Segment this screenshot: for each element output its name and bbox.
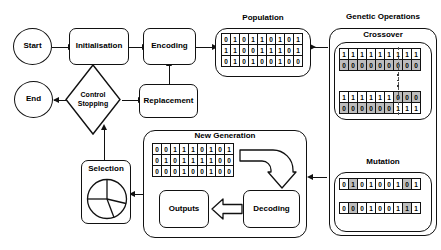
bit-cell: 0	[224, 165, 234, 177]
bit-row: 010100100	[221, 55, 302, 67]
node-start-label: Start	[23, 42, 41, 50]
roulette-wheel-icon	[85, 177, 129, 221]
new-generation-label: New Generation	[143, 131, 307, 140]
node-control-stopping-label: Control Stopping	[64, 63, 122, 136]
bit-cell: 1	[411, 178, 421, 190]
arrow-control-to-replacement	[122, 100, 139, 102]
node-outputs[interactable]: Outputs	[159, 190, 209, 228]
bit-row: 010100101	[339, 178, 420, 190]
node-encoding-label: Encoding	[151, 42, 187, 50]
node-decoding-label: Decoding	[253, 205, 289, 213]
bit-row: 000100100	[152, 165, 233, 177]
crossover-label: Crossover	[334, 30, 432, 39]
arrow-encoding-to-population	[196, 47, 213, 49]
node-initialisation-label: Initialisation	[76, 42, 123, 50]
bit-row: 000100111	[339, 202, 420, 214]
node-initialisation[interactable]: Initialisation	[69, 28, 129, 65]
node-selection-label: Selection	[82, 161, 130, 173]
bit-row: 000000111	[339, 102, 420, 114]
node-selection[interactable]: Selection	[81, 160, 131, 224]
population-label: Population	[215, 13, 311, 22]
genetic-operations-label: Genetic Operations	[329, 12, 437, 21]
mutation-matrix: 010100101000100111	[339, 178, 420, 214]
crossover-parents-matrix: 111111111000000000	[339, 48, 420, 71]
node-replacement[interactable]: Replacement	[139, 84, 198, 118]
bit-row: 000000000	[339, 59, 420, 71]
crossover-ellipsis-icon	[397, 74, 399, 87]
population-matrix: 010110101110011101010100100	[221, 33, 302, 67]
node-end[interactable]: End	[14, 81, 53, 118]
arrow-initialisation-to-encoding	[129, 47, 143, 49]
bit-cell: 1	[411, 202, 421, 214]
new-generation-matrix: 001110101010111100000100100	[152, 143, 233, 177]
bit-cell: 0	[411, 59, 421, 71]
arrow-replacement-to-encoding	[169, 64, 171, 84]
bit-cell: 0	[293, 55, 303, 67]
arrow-start-to-initialisation	[52, 47, 69, 49]
bit-cell: 1	[411, 102, 421, 114]
node-start[interactable]: Start	[13, 28, 52, 65]
node-decoding[interactable]: Decoding	[243, 190, 300, 228]
block-arrow-decoding-to-outputs	[211, 197, 243, 221]
crossover-offspring-matrix: 111111000000000111	[339, 91, 420, 114]
arrowhead-genetic-to-newgen	[307, 174, 313, 180]
node-control-stopping[interactable]: Control Stopping	[64, 63, 122, 136]
node-replacement-label: Replacement	[144, 97, 194, 105]
node-end-label: End	[26, 95, 41, 103]
mutation-label: Mutation	[334, 157, 432, 166]
block-arrow-newgen-to-decoding	[239, 146, 297, 190]
arrowhead-control-to-end	[53, 97, 59, 103]
node-encoding[interactable]: Encoding	[143, 28, 196, 65]
node-outputs-label: Outputs	[169, 205, 200, 213]
genetic-algorithm-flowchart: Population Genetic Operations Crossover …	[0, 0, 441, 250]
